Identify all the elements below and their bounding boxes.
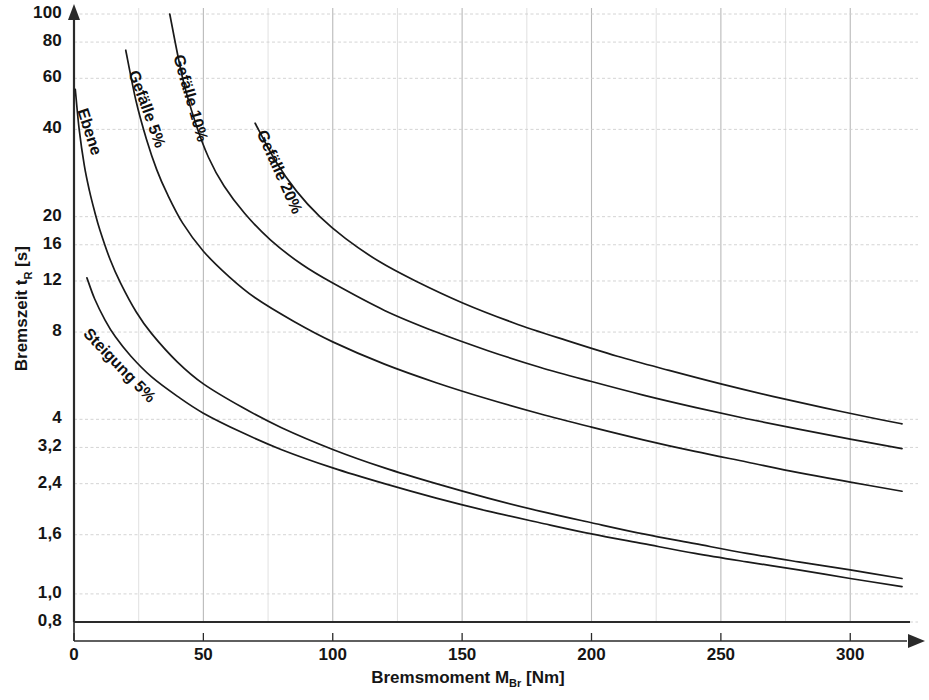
y-tick-label: 1,0: [0, 583, 62, 603]
grid-layer: [74, 8, 918, 622]
x-axis-title: Bremsmoment MBr [Nm]: [318, 668, 618, 689]
y-tick-label: 0,8: [0, 611, 62, 631]
y-axis-title-main: Bremszeit t: [12, 280, 31, 372]
y-tick-label: 4: [0, 408, 62, 428]
x-tick-label: 50: [173, 645, 233, 665]
y-tick-label: 40: [0, 118, 62, 138]
curve-gef-lle-10: [170, 14, 902, 449]
y-axis-title-unit: [s]: [12, 246, 31, 272]
x-tick-label: 300: [820, 645, 880, 665]
y-tick-label: 2,4: [0, 473, 62, 493]
y-tick-label: 3,2: [0, 436, 62, 456]
x-axis-title-main: Bremsmoment M: [371, 668, 509, 687]
curve-ebene: [75, 89, 902, 578]
y-axis-title: Bremszeit tR [s]: [12, 224, 33, 394]
x-axis-title-unit: [Nm]: [521, 668, 564, 687]
x-tick-label: 250: [691, 645, 751, 665]
x-tick-label: 200: [562, 645, 622, 665]
x-tick-label: 0: [44, 645, 104, 665]
x-tick-label: 100: [303, 645, 363, 665]
y-tick-label: 80: [0, 31, 62, 51]
y-axis-title-sub: R: [22, 272, 34, 280]
brake-time-chart: 0,81,01,62,43,248121620406080100 0501001…: [0, 0, 929, 700]
y-tick-label: 1,6: [0, 524, 62, 544]
x-tick-label: 150: [432, 645, 492, 665]
y-tick-label: 100: [0, 3, 62, 23]
y-tick-label: 60: [0, 67, 62, 87]
y-tick-label: 20: [0, 206, 62, 226]
x-axis-title-sub: Br: [509, 677, 521, 689]
curve-steigung-5: [87, 278, 902, 587]
